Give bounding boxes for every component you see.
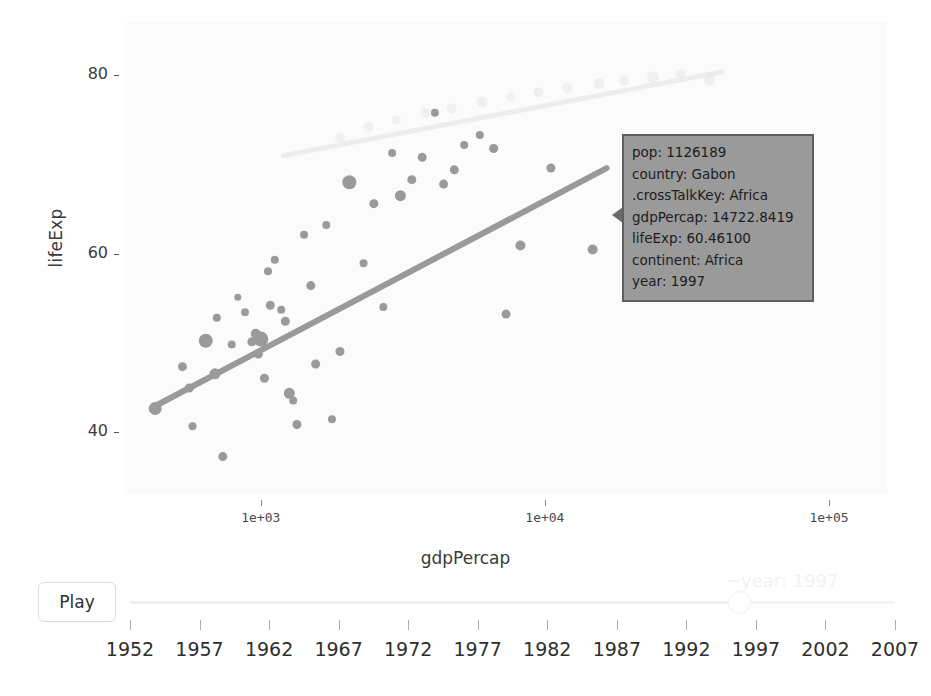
data-point[interactable]	[704, 74, 715, 85]
data-point[interactable]	[306, 281, 315, 290]
data-point[interactable]	[335, 347, 344, 356]
data-point[interactable]	[388, 149, 396, 157]
data-point[interactable]	[178, 362, 187, 371]
tooltip-key: gdpPercap:	[632, 209, 712, 225]
tooltip-value: Africa	[729, 187, 768, 203]
year-tick-mark	[547, 620, 548, 630]
data-point[interactable]	[507, 92, 516, 101]
slider-fill	[130, 601, 740, 604]
data-point[interactable]	[447, 103, 457, 113]
tooltip-key: country:	[632, 166, 691, 182]
data-point[interactable]	[450, 165, 459, 174]
data-point[interactable]	[379, 303, 387, 311]
data-point[interactable]	[292, 420, 301, 429]
data-point[interactable]	[264, 267, 272, 275]
tooltip-key: year:	[632, 273, 671, 289]
tooltip-key: .crossTalkKey:	[632, 187, 729, 203]
year-tick-mark	[269, 620, 270, 630]
data-point[interactable]	[421, 108, 431, 118]
data-point[interactable]	[489, 144, 498, 153]
tooltip-value: 14722.8419	[712, 209, 794, 225]
data-point[interactable]	[418, 153, 427, 162]
data-point[interactable]	[189, 422, 197, 430]
data-point[interactable]	[364, 122, 374, 132]
data-point[interactable]	[515, 241, 525, 251]
tooltip-row: lifeExp: 60.46100	[632, 228, 804, 250]
year-slider[interactable]: ~year: 1997	[130, 582, 895, 622]
year-tick-mark	[200, 620, 201, 630]
data-point[interactable]	[476, 97, 487, 108]
year-tick-label[interactable]: 2007	[850, 638, 931, 660]
tooltip-value: Gabon	[691, 166, 735, 182]
tooltip-key: lifeExp:	[632, 230, 687, 246]
data-point[interactable]	[534, 87, 544, 97]
tooltip-key: pop:	[632, 144, 666, 160]
data-point[interactable]	[213, 314, 221, 322]
tooltip-key: continent:	[632, 252, 705, 268]
data-point[interactable]	[431, 109, 439, 117]
data-point[interactable]	[562, 83, 572, 93]
data-point[interactable]	[392, 115, 401, 124]
data-point[interactable]	[241, 308, 249, 316]
data-point[interactable]	[675, 69, 685, 79]
data-point[interactable]	[322, 221, 330, 229]
gapminder-animation-widget: lifeExp 8060401e+031e+041e+05 pop: 11261…	[0, 0, 931, 696]
data-point[interactable]	[502, 310, 511, 319]
data-point[interactable]	[199, 334, 213, 348]
data-point[interactable]	[218, 452, 227, 461]
tooltip-value: 60.46100	[687, 230, 751, 246]
highlighted-data-point[interactable]	[588, 244, 598, 254]
data-point[interactable]	[289, 396, 297, 404]
data-point[interactable]	[281, 317, 290, 326]
data-point[interactable]	[271, 256, 279, 264]
data-point[interactable]	[647, 71, 659, 83]
data-point[interactable]	[460, 141, 468, 149]
tooltip-value: Africa	[705, 252, 744, 268]
data-point[interactable]	[369, 199, 378, 208]
data-point[interactable]	[335, 133, 345, 143]
data-point[interactable]	[266, 301, 275, 310]
data-point[interactable]	[395, 190, 406, 201]
data-point[interactable]	[360, 259, 368, 267]
year-tick-mark	[686, 620, 687, 630]
data-point[interactable]	[300, 231, 308, 239]
tooltip-row: .crossTalkKey: Africa	[632, 185, 804, 207]
point-tooltip: pop: 1126189country: Gabon.crossTalkKey:…	[622, 134, 814, 302]
data-point[interactable]	[619, 76, 629, 86]
year-tick-mark	[756, 620, 757, 630]
tooltip-row: continent: Africa	[632, 250, 804, 272]
data-point[interactable]	[439, 180, 448, 189]
slider-value-label: ~year: 1997	[726, 570, 839, 591]
data-point[interactable]	[407, 175, 416, 184]
year-tick-mark	[130, 620, 131, 630]
data-point[interactable]	[228, 340, 236, 348]
data-point[interactable]	[254, 350, 263, 359]
year-tick-mark	[339, 620, 340, 630]
year-tick-mark	[617, 620, 618, 630]
data-point[interactable]	[234, 294, 241, 301]
play-button[interactable]: Play	[38, 582, 116, 622]
year-tick-mark	[825, 620, 826, 630]
data-point[interactable]	[185, 384, 194, 393]
data-point[interactable]	[253, 332, 268, 347]
data-point[interactable]	[277, 306, 285, 314]
year-tick-mark	[408, 620, 409, 630]
data-point[interactable]	[149, 402, 162, 415]
tooltip-row: year: 1997	[632, 271, 804, 293]
data-point[interactable]	[593, 78, 604, 89]
data-point[interactable]	[328, 415, 336, 423]
tooltip-value: 1997	[671, 273, 705, 289]
slider-handle[interactable]	[728, 591, 751, 614]
plot-area[interactable]: lifeExp 8060401e+031e+041e+05 pop: 11261…	[0, 0, 931, 540]
trend-line	[154, 168, 607, 407]
tooltip-value: 1126189	[666, 144, 726, 160]
year-ticks: 1952195719621967197219771982198719921997…	[0, 620, 931, 690]
data-point[interactable]	[546, 164, 555, 173]
data-point[interactable]	[342, 175, 356, 189]
year-tick-mark	[895, 620, 896, 630]
data-point[interactable]	[210, 368, 221, 379]
data-point[interactable]	[260, 374, 269, 383]
tooltip-row: country: Gabon	[632, 164, 804, 186]
data-point[interactable]	[311, 359, 320, 368]
data-point[interactable]	[476, 131, 484, 139]
